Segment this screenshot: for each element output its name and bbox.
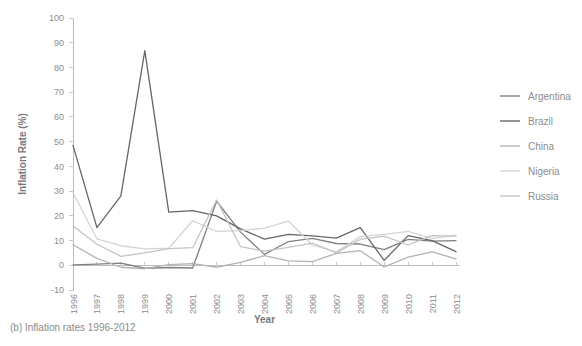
y-tick-label: 80 <box>54 63 64 73</box>
series-line-argentina <box>73 201 456 268</box>
legend-label-brazil: Brazil <box>528 116 553 127</box>
x-tick-label: 2003 <box>236 294 246 314</box>
x-tick-label: 2009 <box>380 294 390 314</box>
y-tick-label: 10 <box>54 236 64 246</box>
y-tick-label: 60 <box>54 112 64 122</box>
chart-legend: ArgentinaBrazilChinaNigeriaRussia <box>500 91 571 202</box>
y-tick-label: 100 <box>49 13 64 23</box>
x-tick-label: 1999 <box>140 294 150 314</box>
x-axis: 1996199719981999200020012002200320042005… <box>69 262 462 314</box>
x-tick-label: 2011 <box>428 294 438 313</box>
x-tick-label: 2004 <box>260 294 270 314</box>
x-tick-label: 2012 <box>452 294 462 314</box>
x-tick-label: 2010 <box>404 294 414 314</box>
series-lines <box>73 51 456 269</box>
y-tick-label: 30 <box>54 186 64 196</box>
series-line-brazil <box>73 51 456 261</box>
y-tick-label: 50 <box>54 137 64 147</box>
x-tick-label: 1997 <box>92 294 102 314</box>
inflation-line-chart: -100102030405060708090100 19961997199819… <box>0 0 582 346</box>
y-tick-label: 90 <box>54 38 64 48</box>
legend-label-russia: Russia <box>528 191 559 202</box>
x-tick-label: 1998 <box>116 294 126 314</box>
figure-caption: (b) Inflation rates 1996-2012 <box>10 322 136 333</box>
x-tick-label: 2008 <box>356 294 366 314</box>
legend-label-argentina: Argentina <box>528 91 571 102</box>
y-tick-label: 40 <box>54 162 64 172</box>
x-tick-label: 2000 <box>164 294 174 314</box>
y-tick-label: 0 <box>59 260 64 270</box>
legend-label-nigeria: Nigeria <box>528 166 560 177</box>
figure-container: -100102030405060708090100 19961997199819… <box>0 0 582 346</box>
y-tick-label: 20 <box>54 211 64 221</box>
x-tick-label: 2001 <box>188 294 198 314</box>
x-tick-label: 2006 <box>308 294 318 314</box>
y-axis-title: Inflation Rate (%) <box>17 113 28 195</box>
x-tick-label: 2002 <box>212 294 222 314</box>
x-tick-label: 2007 <box>332 294 342 314</box>
legend-label-china: China <box>528 141 555 152</box>
y-tick-label: -10 <box>51 285 64 295</box>
x-tick-label: 2005 <box>284 294 294 314</box>
y-tick-label: 70 <box>54 87 64 97</box>
x-tick-label: 1996 <box>69 294 79 314</box>
x-axis-title: Year <box>254 314 275 325</box>
y-axis: -100102030405060708090100 <box>49 13 74 295</box>
